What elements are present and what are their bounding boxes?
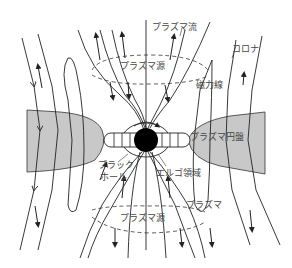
- label-plasma-source-bottom: プラズマ源: [120, 213, 165, 223]
- label-plasma: プラズマ: [186, 200, 222, 210]
- label-black-hole-2: ホール: [100, 172, 127, 182]
- label-plasma-source-top: プラズマ源: [120, 61, 165, 71]
- label-corona: コロナ: [232, 44, 259, 54]
- label-magnetic-field-line: 磁力線: [196, 80, 223, 90]
- label-ergo-region: エルゴ領域: [156, 168, 201, 178]
- plasma-source-top-lower: [92, 75, 208, 84]
- black-hole: [134, 128, 158, 152]
- label-black-hole-1: ブラック: [98, 160, 134, 170]
- label-plasma-disk: プラズマ円盤: [190, 132, 244, 142]
- magnetosphere-diagram: プラズマ流 コロナ プラズマ源 磁力線 プラズマ円盤 ブラック ホール エルゴ領…: [0, 0, 292, 268]
- label-plasma-flow: プラズマ流: [152, 22, 197, 32]
- diagram-canvas: [0, 0, 292, 268]
